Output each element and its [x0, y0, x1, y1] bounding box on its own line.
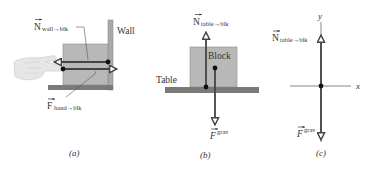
svg-text:N: N — [193, 17, 200, 27]
label-f-hand-blk: F hand→blk — [47, 99, 82, 111]
svg-text:table→blk: table→blk — [280, 36, 308, 43]
origin-dot — [319, 84, 324, 89]
label-n-table-blk: N table→blk — [272, 31, 308, 43]
panel-c: x y N table→blk F grav (c) — [272, 11, 360, 158]
table-label: Table — [156, 75, 177, 85]
svg-text:grav: grav — [304, 126, 316, 133]
hand-icon — [14, 56, 65, 80]
free-body-diagram-figure: N wall→blk Wall F hand→blk (a) Table Blo… — [0, 0, 376, 169]
point-of-application-dot — [61, 67, 66, 72]
svg-text:table→blk: table→blk — [201, 20, 229, 27]
block — [63, 44, 108, 85]
wall — [108, 20, 113, 90]
point-of-application-dot — [106, 60, 111, 65]
label-n-table-blk: N table→blk — [193, 15, 229, 28]
svg-text:F: F — [209, 131, 216, 141]
y-axis-label: y — [317, 11, 322, 21]
svg-text:F: F — [47, 101, 52, 111]
block-label: Block — [208, 51, 231, 61]
svg-text:grav: grav — [217, 128, 229, 135]
svg-text:N: N — [34, 22, 41, 32]
caption-a: (a) — [69, 148, 80, 158]
center-of-mass-dot — [213, 66, 218, 71]
label-f-grav: F grav — [296, 126, 316, 139]
label-n-wall-blk: N wall→blk — [34, 20, 69, 33]
svg-text:F: F — [296, 129, 303, 139]
label-f-grav: F grav — [209, 128, 229, 141]
point-of-application-dot — [204, 85, 209, 90]
caption-c: (c) — [316, 148, 326, 158]
x-axis-label: x — [355, 81, 360, 91]
panel-a: N wall→blk Wall F hand→blk (a) — [14, 20, 135, 159]
svg-text:N: N — [272, 33, 279, 43]
table-surface — [165, 87, 259, 93]
panel-b: Table Block N table→blk F grav (b) — [156, 15, 259, 161]
svg-text:hand→blk: hand→blk — [54, 104, 82, 111]
svg-text:wall→blk: wall→blk — [42, 25, 69, 32]
caption-b: (b) — [200, 150, 211, 160]
wall-label: Wall — [117, 26, 135, 36]
